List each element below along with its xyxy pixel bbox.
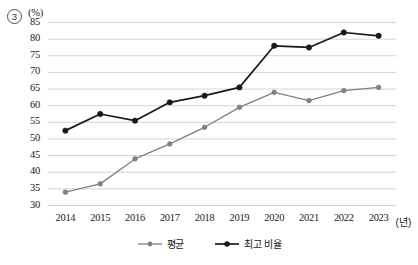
data-point: [376, 33, 381, 38]
y-axis-tick-label: 45: [14, 149, 40, 160]
x-axis-tick-label: 2022: [327, 212, 361, 223]
data-point: [376, 85, 381, 90]
data-point: [237, 105, 242, 110]
line-chart-plot: [0, 0, 418, 265]
chart-figure: 3 (%) 303540455055606570758085 201420152…: [0, 0, 418, 265]
y-axis-tick-label: 60: [14, 99, 40, 110]
data-point: [272, 90, 277, 95]
x-axis-tick-label: 2019: [222, 212, 256, 223]
data-point: [133, 157, 138, 162]
y-axis-tick-label: 75: [14, 49, 40, 60]
data-point: [341, 30, 346, 35]
data-point: [307, 98, 312, 103]
data-point: [98, 111, 103, 116]
legend-label: 평균: [167, 236, 184, 251]
y-axis-tick-label: 30: [14, 199, 40, 210]
data-point: [167, 142, 172, 147]
line-dot-marker: [214, 239, 240, 249]
data-point: [167, 100, 172, 105]
x-axis-tick-label: 2020: [257, 212, 291, 223]
data-point: [202, 93, 207, 98]
y-axis-tick-label: 80: [14, 32, 40, 43]
data-point: [306, 45, 311, 50]
x-axis-tick-label: 2023: [362, 212, 396, 223]
y-axis-tick-label: 55: [14, 115, 40, 126]
data-point: [237, 85, 242, 90]
legend-entry: 최고 비율: [214, 236, 281, 251]
data-point: [98, 181, 103, 186]
y-axis-tick-label: 40: [14, 165, 40, 176]
y-axis-tick-label: 35: [14, 182, 40, 193]
x-axis-tick-label: 2021: [292, 212, 326, 223]
series-line: [65, 87, 378, 192]
y-axis-tick-label: 50: [14, 132, 40, 143]
x-axis-tick-label: 2015: [83, 212, 117, 223]
legend-entry: 평균: [137, 236, 184, 251]
chart-legend: 평균최고 비율: [0, 236, 418, 251]
data-point: [202, 125, 207, 130]
data-point: [341, 88, 346, 93]
x-axis-tick-label: 2017: [153, 212, 187, 223]
x-axis-tick-label: 2014: [48, 212, 82, 223]
data-point: [63, 128, 68, 133]
data-point: [63, 190, 68, 195]
data-point: [272, 43, 277, 48]
x-axis-unit-label: (년): [396, 214, 412, 229]
legend-label: 최고 비율: [244, 236, 281, 251]
x-axis-tick-label: 2016: [118, 212, 152, 223]
line-dot-marker: [137, 239, 163, 249]
series-line: [65, 32, 378, 130]
y-axis-tick-label: 85: [14, 16, 40, 27]
y-axis-tick-label: 70: [14, 65, 40, 76]
x-axis-tick-label: 2018: [188, 212, 222, 223]
data-point: [132, 118, 137, 123]
y-axis-tick-label: 65: [14, 82, 40, 93]
